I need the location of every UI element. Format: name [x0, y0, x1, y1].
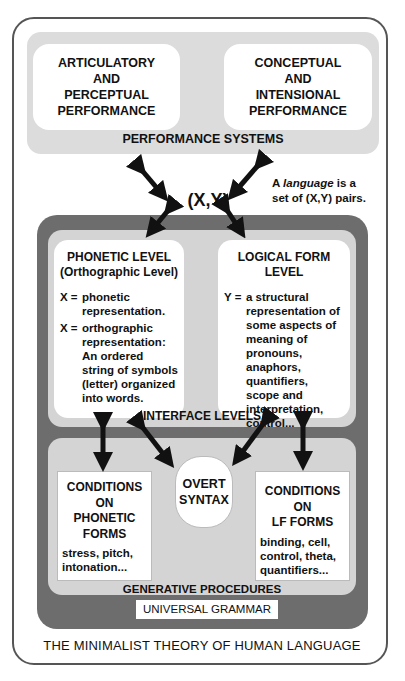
- title-line: ON: [260, 500, 345, 516]
- definition-text: orthographic representation: An ordered …: [82, 321, 178, 405]
- lf-conditions-box: CONDITIONS ON LF FORMS binding, cell, co…: [255, 471, 350, 581]
- title-line: LF FORMS: [260, 515, 345, 531]
- language-definition-note: A language is a set of (X,Y) pairs.: [272, 176, 392, 206]
- box-line: OVERT: [179, 476, 229, 492]
- box-line: INTENSIONAL: [249, 87, 347, 103]
- box-line: PERCEPTUAL: [58, 87, 156, 103]
- phonetic-level-title: PHONETIC LEVEL (Orthographic Level): [60, 250, 178, 280]
- box-line: PERFORMANCE: [58, 103, 156, 119]
- definition-variable: X =: [60, 290, 82, 318]
- note-text: set of (X,Y) pairs.: [272, 192, 366, 204]
- overt-syntax-box: OVERT SYNTAX: [175, 456, 233, 528]
- logical-form-level-box: LOGICAL FORM LEVEL Y = a structural repr…: [218, 240, 350, 418]
- note-text: A: [272, 177, 283, 189]
- title-line: (Orthographic Level): [60, 265, 178, 280]
- logical-form-level-title: LOGICAL FORM LEVEL: [224, 250, 344, 280]
- diagram-caption: THE MINIMALIST THEORY OF HUMAN LANGUAGE: [12, 638, 392, 653]
- box-line: AND: [249, 71, 347, 87]
- title-line: LEVEL: [224, 265, 344, 280]
- title-line: CONDITIONS: [260, 484, 345, 500]
- title-line: FORMS: [62, 527, 147, 543]
- note-text: is a: [334, 177, 356, 189]
- phonetic-level-box: PHONETIC LEVEL (Orthographic Level) X = …: [54, 240, 184, 418]
- performance-systems-label: PERFORMANCE SYSTEMS: [27, 132, 379, 146]
- box-line: ARTICULATORY: [58, 55, 156, 71]
- title-line: PHONETIC LEVEL: [60, 250, 178, 265]
- conditions-examples: stress, pitch, intonation...: [62, 546, 147, 574]
- conceptual-intensional-box: CONCEPTUAL AND INTENSIONAL PERFORMANCE: [224, 44, 372, 130]
- articulatory-perceptual-box: ARTICULATORY AND PERCEPTUAL PERFORMANCE: [33, 44, 180, 130]
- phonetic-conditions-box: CONDITIONS ON PHONETIC FORMS stress, pit…: [57, 471, 152, 581]
- generative-procedures-label: GENERATIVE PROCEDURES: [48, 583, 356, 595]
- note-emphasis: language: [283, 177, 333, 189]
- definition: X = orthographic representation: An orde…: [60, 321, 178, 405]
- definition-variable: X =: [60, 321, 82, 405]
- xy-pair-label: (X,Y): [178, 190, 238, 211]
- universal-grammar-label: UNIVERSAL GRAMMAR: [136, 600, 278, 619]
- definition: X = phonetic representation.: [60, 290, 178, 318]
- box-line: CONCEPTUAL: [249, 55, 347, 71]
- box-line: SYNTAX: [179, 492, 229, 508]
- title-line: ON: [62, 496, 147, 512]
- title-line: PHONETIC: [62, 511, 147, 527]
- title-line: CONDITIONS: [62, 480, 147, 496]
- interface-levels-label: INTERFACE LEVELS: [48, 409, 356, 423]
- box-line: AND: [58, 71, 156, 87]
- conditions-title: CONDITIONS ON LF FORMS: [260, 484, 345, 531]
- title-line: LOGICAL FORM: [224, 250, 344, 265]
- conditions-examples: binding, cell, control, theta, quantifie…: [260, 535, 345, 577]
- definition-text: phonetic representation.: [82, 290, 178, 318]
- conditions-title: CONDITIONS ON PHONETIC FORMS: [62, 480, 147, 542]
- box-line: PERFORMANCE: [249, 103, 347, 119]
